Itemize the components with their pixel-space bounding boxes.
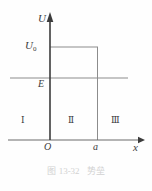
energy-level-label: E	[38, 79, 44, 89]
origin-label: O	[44, 142, 51, 152]
barrier-width-label: a	[93, 142, 98, 152]
figure-drawing	[0, 0, 152, 191]
potential-barrier-figure: U x U0 E O a Ⅰ Ⅱ Ⅲ 图 13-32势垒	[0, 0, 152, 191]
barrier-height-symbol: U	[25, 39, 33, 51]
region-label-three: Ⅲ	[111, 116, 120, 125]
x-axis-label: x	[133, 142, 138, 153]
region-label-one: Ⅰ	[21, 116, 25, 125]
x-axis-arrowhead	[138, 137, 145, 143]
barrier-height-label: U0	[25, 40, 36, 51]
caption-title: 势垒	[87, 166, 105, 176]
barrier-height-subscript: 0	[33, 45, 37, 53]
figure-caption: 图 13-32势垒	[0, 164, 152, 177]
caption-number: 图 13-32	[47, 166, 79, 176]
u-axis-arrowhead	[47, 12, 54, 22]
region-label-two: Ⅱ	[68, 116, 75, 125]
u-axis-label: U	[38, 13, 46, 24]
